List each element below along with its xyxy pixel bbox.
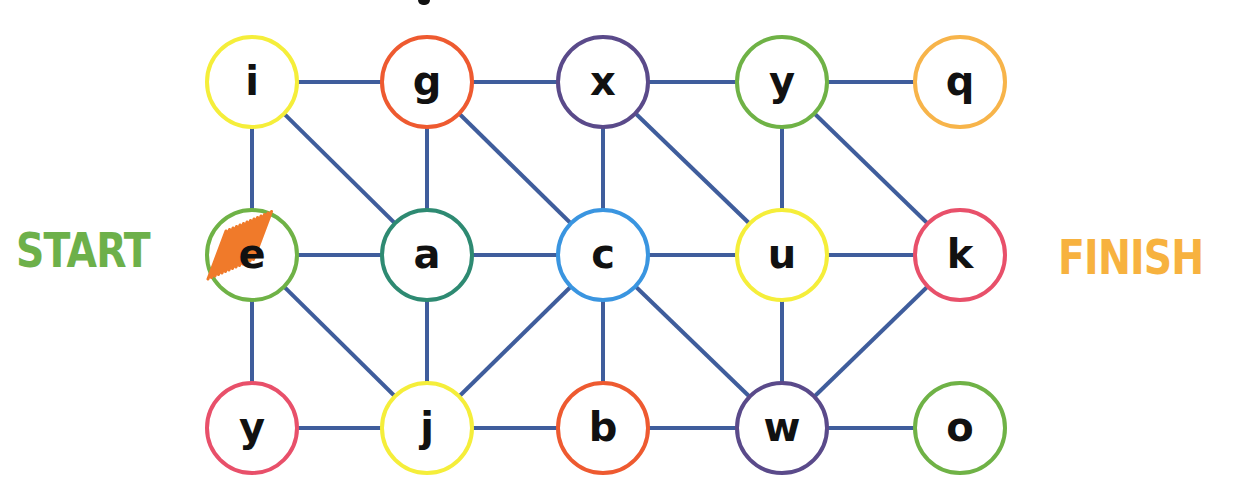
node-letter: q (946, 58, 975, 104)
node-letter: c (591, 231, 615, 277)
node-letter: e (238, 231, 265, 277)
start-label: START (16, 222, 150, 278)
node-letter: g (413, 58, 442, 104)
node-letter: j (418, 404, 434, 450)
node-x[interactable]: x (558, 37, 648, 127)
node-letter: a (414, 231, 441, 277)
node-letter: b (589, 404, 618, 450)
node-i[interactable]: i (207, 37, 297, 127)
node-letter: y (239, 404, 265, 450)
node-a[interactable]: a (382, 210, 472, 300)
node-u[interactable]: u (737, 210, 827, 300)
node-letter: w (764, 404, 801, 450)
node-letter: y (769, 58, 795, 104)
node-letter: x (590, 58, 616, 104)
node-q[interactable]: q (915, 37, 1005, 127)
node-letter: u (768, 231, 796, 277)
node-letter: o (946, 404, 973, 450)
finish-label: FINISH (1058, 229, 1203, 285)
node-y[interactable]: y (207, 383, 297, 473)
node-k[interactable]: k (915, 210, 1005, 300)
node-o[interactable]: o (915, 383, 1005, 473)
node-g[interactable]: g (382, 37, 472, 127)
node-c[interactable]: c (558, 210, 648, 300)
node-w[interactable]: w (737, 383, 827, 473)
node-b[interactable]: b (558, 383, 648, 473)
letter-maze-graph: igxyqeacukyjbwo (0, 0, 1240, 491)
node-j[interactable]: j (382, 383, 472, 473)
node-e[interactable]: e (207, 210, 297, 300)
node-letter: k (947, 231, 975, 277)
node-y[interactable]: y (737, 37, 827, 127)
node-letter: i (245, 58, 259, 104)
